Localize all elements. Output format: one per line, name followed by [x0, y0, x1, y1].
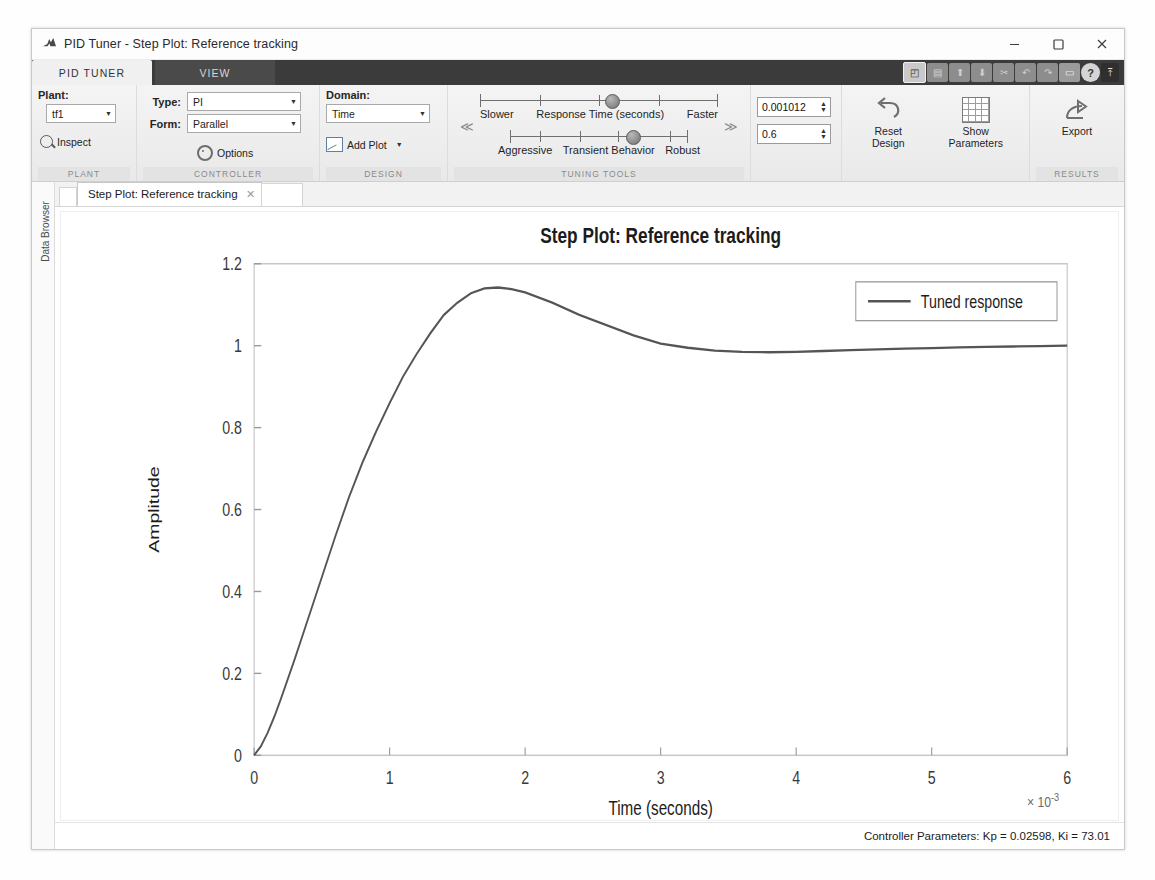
transient-behavior-slider-thumb[interactable] — [626, 130, 641, 145]
add-plot-button[interactable]: Add Plot ▼ — [326, 137, 403, 152]
transient-behavior-input[interactable] — [758, 127, 812, 141]
document-tab-bar: Step Plot: Reference tracking ✕ — [55, 182, 1124, 207]
group-label-design: DESIGN — [326, 167, 441, 181]
y-tick-label: 1.2 — [222, 254, 242, 274]
type-select[interactable]: PI ▼ — [187, 92, 301, 111]
plot-frame[interactable]: 012345600.20.40.60.811.2 Step Plot: Refe… — [60, 211, 1119, 821]
maximize-button[interactable] — [1036, 29, 1080, 59]
controller-parameters-text: Controller Parameters: Kp = 0.02598, Ki … — [864, 830, 1110, 842]
ribbon-tab-strip: PID TUNER VIEW ◰ ▤ ⬆ ⬇ ✂ ↶ ↷ ▭ ? ⤒ — [32, 60, 1124, 85]
type-caption: Type: — [143, 96, 181, 108]
slider-tick — [540, 131, 541, 142]
chevron-down-icon: ▼ — [105, 110, 112, 117]
x-tick-label: 5 — [928, 767, 936, 787]
y-tick-label: 0.8 — [222, 417, 242, 437]
response-time-stepper[interactable]: ▲▼ — [757, 97, 831, 117]
transient-aggressive-label: Aggressive — [498, 144, 552, 156]
type-row: Type: PI ▼ — [143, 92, 313, 111]
table-grid-icon — [962, 95, 990, 125]
ribbon-group-design-actions: Reset Design Show Parameters — [842, 85, 1030, 181]
show-parameters-label-line2: Parameters — [949, 137, 1003, 149]
title-bar: PID Tuner - Step Plot: Reference trackin… — [32, 29, 1124, 60]
stepper-arrows-icon[interactable]: ▲▼ — [820, 128, 830, 140]
status-bar: Controller Parameters: Kp = 0.02598, Ki … — [55, 822, 1124, 849]
y-tick-label: 0.4 — [222, 581, 242, 601]
tab-view[interactable]: VIEW — [155, 60, 275, 85]
slider-tick — [670, 131, 671, 142]
open-icon[interactable]: ⬆ — [949, 63, 970, 82]
transient-behavior-stepper[interactable]: ▲▼ — [757, 124, 831, 144]
document-main: Step Plot: Reference tracking ✕ 01234560… — [55, 182, 1124, 849]
options-button[interactable]: Options — [197, 145, 313, 161]
stepper-arrows-icon[interactable]: ▲▼ — [820, 101, 830, 113]
chevron-down-icon: ▼ — [419, 110, 426, 117]
response-time-slower-label: Slower — [480, 108, 514, 120]
legend-label-tuned-response: Tuned response — [921, 291, 1023, 311]
slider-tick — [618, 131, 619, 142]
options-label: Options — [217, 147, 253, 159]
transient-center-label: Transient Behavior — [563, 144, 655, 156]
slider-end-right — [717, 94, 718, 107]
close-icon — [1096, 38, 1108, 50]
inspect-label: Inspect — [57, 136, 91, 148]
data-browser-label: Data Browser — [40, 195, 51, 269]
inspect-button[interactable]: Inspect — [40, 135, 91, 148]
export-button[interactable]: Export — [1048, 91, 1106, 137]
x-tick-label: 2 — [521, 767, 529, 787]
domain-select[interactable]: Time ▼ — [326, 104, 430, 123]
cut-icon[interactable]: ✂ — [993, 63, 1014, 82]
data-browser-rail[interactable]: Data Browser — [32, 182, 55, 849]
show-parameters-button[interactable]: Show Parameters — [940, 91, 1012, 149]
matlab-app-icon[interactable]: ◰ — [903, 62, 926, 83]
chart-title: Step Plot: Reference tracking — [540, 223, 781, 247]
transient-behavior-slider[interactable]: Aggressive Transient Behavior Robust — [480, 129, 718, 159]
undo-arrow-icon — [874, 95, 902, 125]
y-tick-label: 1 — [234, 335, 242, 355]
step-response-chart[interactable]: 012345600.20.40.60.811.2 Step Plot: Refe… — [61, 212, 1118, 820]
close-icon[interactable]: ✕ — [246, 188, 255, 201]
document-tab-label: Step Plot: Reference tracking — [88, 188, 238, 200]
transient-robust-label: Robust — [665, 144, 700, 156]
x-tick-label: 6 — [1063, 767, 1071, 787]
close-button[interactable] — [1080, 29, 1124, 59]
layout-icon[interactable]: ▭ — [1059, 63, 1080, 82]
group-label-plant: PLANT — [38, 167, 130, 181]
y-tick-label: 0 — [234, 745, 242, 765]
ribbon-group-design: Domain: Time ▼ Add Plot ▼ DESIGN — [320, 85, 448, 181]
chevron-down-icon: ▼ — [396, 141, 403, 148]
slider-end-right — [687, 130, 688, 143]
response-time-input[interactable] — [758, 100, 812, 114]
response-time-slider[interactable]: Slower Response Time (seconds) Faster — [480, 93, 718, 123]
undo-icon[interactable]: ↶ — [1015, 63, 1036, 82]
minimize-button[interactable] — [992, 29, 1036, 59]
ribbon-group-controller: Type: PI ▼ Form: Parallel ▼ — [137, 85, 320, 181]
ribbon-group-tuning-tools: ≪ Slower — [448, 85, 751, 181]
chevron-down-icon: ▼ — [290, 98, 297, 105]
plant-select[interactable]: tf1 ▼ — [46, 104, 116, 123]
reset-design-button[interactable]: Reset Design — [859, 91, 917, 149]
collapse-left-icon[interactable]: ≪ — [454, 119, 480, 134]
tuning-sliders: ≪ Slower — [454, 89, 744, 159]
add-plot-icon — [326, 137, 343, 152]
tab-pid-tuner[interactable]: PID TUNER — [32, 60, 152, 85]
save-icon[interactable]: ▤ — [927, 63, 948, 82]
x-tick-label: 0 — [250, 767, 258, 787]
document-tab-step-plot[interactable]: Step Plot: Reference tracking ✕ — [77, 182, 262, 206]
redo-icon[interactable]: ↷ — [1037, 63, 1058, 82]
plot-canvas: 012345600.20.40.60.811.2 Step Plot: Refe… — [55, 207, 1124, 849]
form-select[interactable]: Parallel ▼ — [187, 114, 301, 133]
help-icon[interactable]: ? — [1081, 63, 1100, 82]
collapse-right-icon[interactable]: ≫ — [718, 119, 744, 134]
chart-legend[interactable]: Tuned response — [856, 282, 1057, 321]
slider-track — [510, 136, 688, 137]
import-icon[interactable]: ⬇ — [971, 63, 992, 82]
matlab-logo-icon — [42, 37, 57, 51]
tab-stub-left — [59, 187, 77, 206]
slider-tick — [659, 95, 660, 106]
pin-ribbon-icon[interactable]: ⤒ — [1101, 63, 1119, 82]
tab-stub-right — [261, 183, 303, 206]
x-axis-label: Time (seconds) — [608, 797, 712, 819]
plant-caption: Plant: — [38, 89, 69, 101]
response-time-slider-thumb[interactable] — [605, 94, 620, 109]
tab-pid-tuner-label: PID TUNER — [59, 67, 125, 79]
